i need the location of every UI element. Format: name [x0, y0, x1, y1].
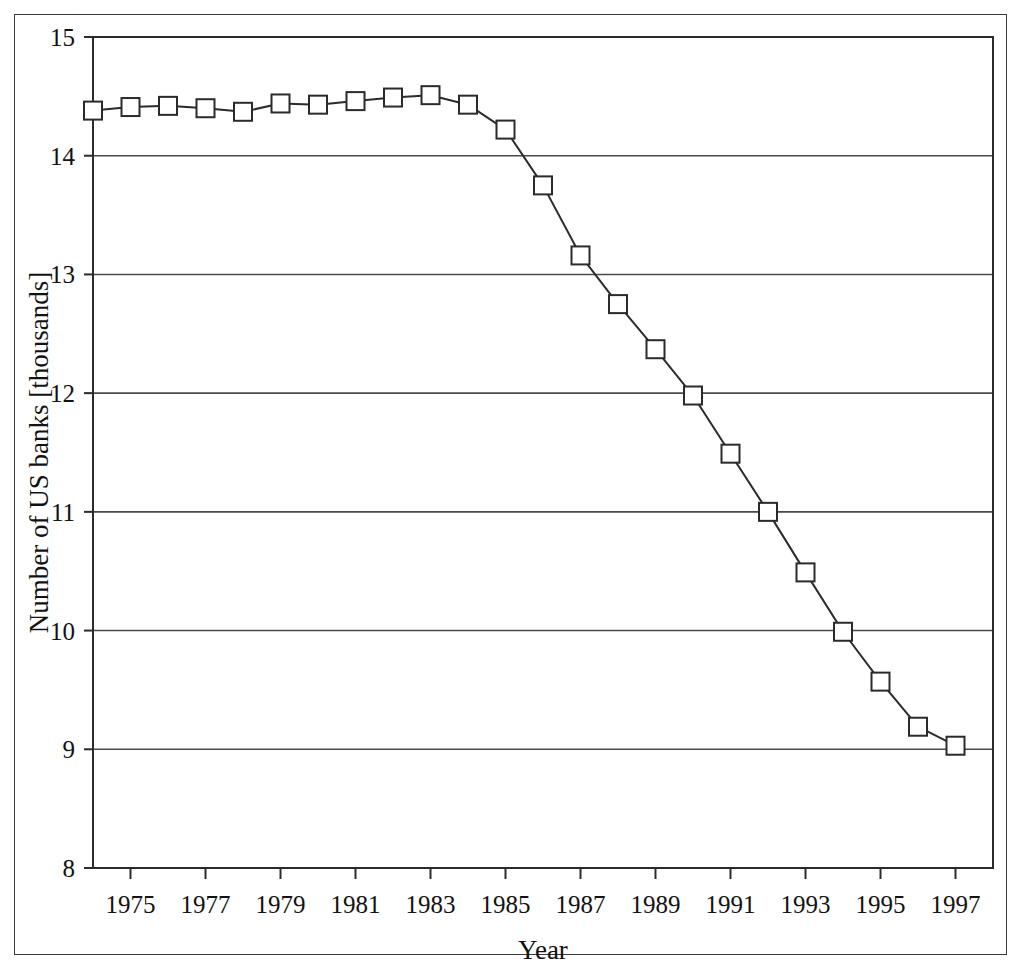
- data-point-marker: [384, 89, 402, 107]
- x-axis-tick-labels: 1975197719791981198319851987198919911993…: [106, 891, 981, 918]
- data-point-marker: [684, 387, 702, 405]
- data-point-marker: [572, 246, 590, 264]
- x-tick-label: 1991: [706, 891, 756, 918]
- x-tick-label: 1981: [331, 891, 381, 918]
- data-point-marker: [159, 97, 177, 115]
- data-point-marker: [497, 121, 515, 139]
- y-tick-label: 14: [50, 143, 76, 170]
- data-point-marker: [534, 176, 552, 194]
- x-axis-ticks: [131, 868, 956, 879]
- data-point-marker: [759, 503, 777, 521]
- y-axis-title: Number of US banks [thousands]: [24, 272, 54, 633]
- x-tick-label: 1979: [256, 891, 306, 918]
- data-point-marker: [947, 737, 965, 755]
- plot-frame: [93, 37, 993, 868]
- data-point-marker: [347, 92, 365, 110]
- data-point-marker: [272, 94, 290, 112]
- y-tick-label: 9: [63, 736, 76, 763]
- y-tick-label: 11: [51, 499, 75, 526]
- x-tick-label: 1977: [181, 891, 231, 918]
- x-tick-label: 1989: [631, 891, 681, 918]
- x-tick-label: 1983: [406, 891, 456, 918]
- x-tick-label: 1985: [481, 891, 531, 918]
- data-point-marker: [797, 563, 815, 581]
- data-point-marker: [422, 86, 440, 104]
- data-point-marker: [459, 96, 477, 114]
- data-point-marker: [834, 623, 852, 641]
- gridlines-group: [93, 156, 993, 750]
- line-chart: 15141312111098 1975197719791981198319851…: [0, 0, 1017, 974]
- x-tick-label: 1987: [556, 891, 606, 918]
- data-point-marker: [722, 445, 740, 463]
- data-point-marker: [122, 98, 140, 116]
- data-point-marker: [197, 99, 215, 117]
- data-point-marker: [872, 673, 890, 691]
- data-point-marker: [609, 295, 627, 313]
- x-tick-label: 1997: [931, 891, 981, 918]
- data-point-marker: [234, 103, 252, 121]
- y-tick-label: 15: [50, 24, 75, 51]
- axes-frame: [93, 37, 993, 868]
- data-point-markers: [84, 86, 965, 755]
- y-axis-tick-labels: 15141312111098: [50, 24, 93, 882]
- plot-area: 15141312111098 1975197719791981198319851…: [0, 0, 1017, 974]
- data-point-marker: [909, 718, 927, 736]
- data-series-us-banks: [93, 95, 956, 746]
- y-tick-label: 8: [63, 855, 76, 882]
- x-axis-title: Year: [518, 935, 568, 965]
- x-tick-label: 1975: [106, 891, 156, 918]
- series-line: [93, 95, 956, 746]
- data-point-marker: [647, 340, 665, 358]
- data-point-marker: [309, 96, 327, 114]
- x-tick-label: 1995: [856, 891, 906, 918]
- figure-container: 15141312111098 1975197719791981198319851…: [0, 0, 1017, 974]
- x-tick-label: 1993: [781, 891, 831, 918]
- data-point-marker: [84, 102, 102, 120]
